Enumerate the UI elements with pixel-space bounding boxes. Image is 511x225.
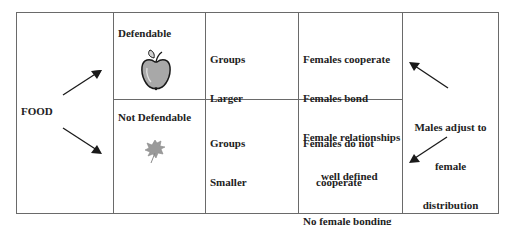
arrow-to-female-cooperate-icon bbox=[409, 62, 448, 88]
arrow-to-female-not-cooperate-icon bbox=[409, 137, 447, 163]
apple-icon bbox=[142, 50, 170, 90]
diagram-graphics bbox=[0, 0, 511, 225]
arrow-to-not-defendable-icon bbox=[63, 128, 102, 154]
arrow-to-defendable-icon bbox=[63, 70, 102, 95]
food-distribution-diagram: FOOD Defendable Groups Larger Females co… bbox=[0, 0, 511, 225]
leaf-icon bbox=[145, 140, 165, 163]
